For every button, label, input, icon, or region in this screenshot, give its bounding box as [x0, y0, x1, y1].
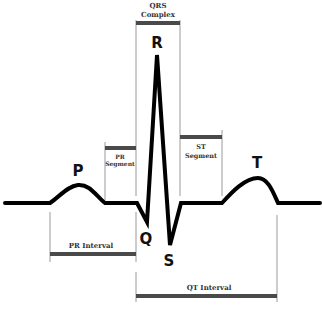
st-segment-bar — [180, 135, 222, 139]
q-wave-label: Q — [140, 230, 153, 248]
qrs-label-line1: QRS — [150, 1, 167, 10]
qt-interval-bar — [136, 294, 277, 298]
r-wave-label: R — [151, 34, 163, 52]
t-wave-label: T — [252, 154, 263, 172]
ecg-diagram: P Q R S T QRS Complex PR Segment ST Segm… — [0, 0, 322, 309]
st-segment-label-line1: ST — [196, 143, 206, 151]
pr-segment-label-line2: Segment — [105, 160, 135, 168]
p-wave-label: P — [73, 162, 84, 180]
qt-interval-label: QT Interval — [187, 283, 232, 292]
pr-segment-label-line1: PR — [115, 153, 126, 160]
qrs-label-line2: Complex — [141, 10, 176, 19]
st-segment-label-line2: Segment — [185, 152, 217, 160]
pr-interval-label: PR Interval — [69, 241, 114, 250]
pr-segment-bar — [105, 146, 136, 150]
s-wave-label: S — [164, 252, 175, 270]
ecg-waveform — [5, 55, 320, 245]
qrs-complex-bar — [136, 21, 180, 25]
pr-interval-bar — [50, 252, 136, 256]
